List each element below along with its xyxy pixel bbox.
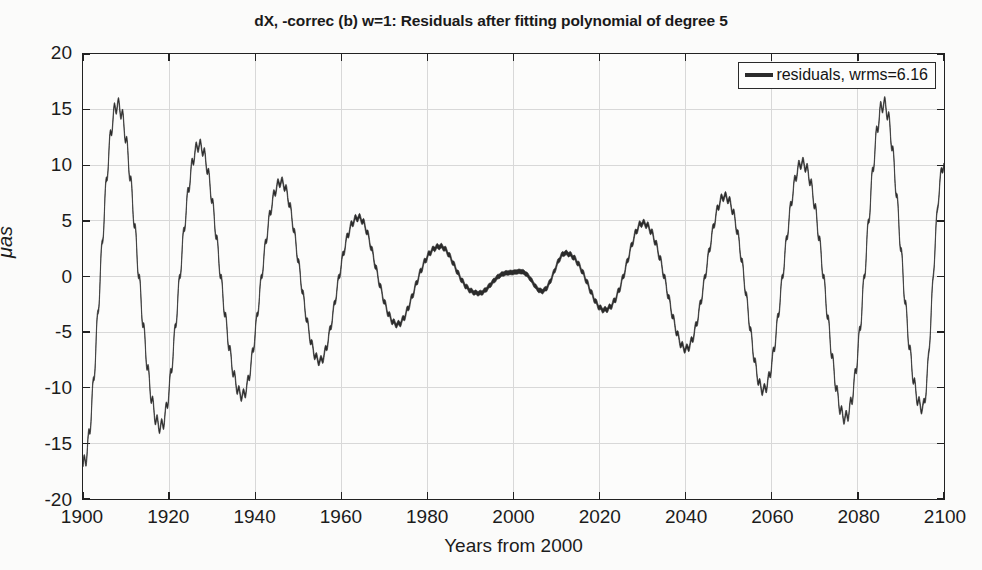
chart-legend: residuals, wrms=6.16 <box>738 62 936 89</box>
x-tick-label: 2040 <box>641 506 731 528</box>
x-tick-label: 1900 <box>37 506 127 528</box>
grid-lines <box>83 54 944 499</box>
x-tick-label: 2000 <box>469 506 559 528</box>
x-tick-label: 1920 <box>123 506 213 528</box>
x-tick-label: 1980 <box>382 506 472 528</box>
x-tick-label: 2100 <box>900 506 982 528</box>
x-tick-label: 2060 <box>727 506 817 528</box>
y-axis-label: μas <box>0 226 17 258</box>
y-tick-label: 20 <box>0 42 72 64</box>
y-tick-label: 15 <box>0 98 72 120</box>
y-tick-label: 10 <box>0 154 72 176</box>
chart-figure: dX, -correc (b) w=1: Residuals after fit… <box>0 0 982 570</box>
x-tick-label: 2080 <box>814 506 904 528</box>
plot-area: residuals, wrms=6.16 <box>82 53 945 500</box>
y-tick-label: -20 <box>0 489 72 511</box>
chart-title: dX, -correc (b) w=1: Residuals after fit… <box>0 12 982 30</box>
y-tick-label: 0 <box>0 266 72 288</box>
legend-line-swatch <box>745 73 773 77</box>
x-tick-label: 2020 <box>555 506 645 528</box>
y-tick-label: -15 <box>0 433 72 455</box>
x-tick-label: 1940 <box>210 506 300 528</box>
y-tick-label: -5 <box>0 321 72 343</box>
x-axis-label: Years from 2000 <box>82 535 945 557</box>
legend-label-residuals: residuals, wrms=6.16 <box>776 66 928 84</box>
x-tick-label: 1960 <box>296 506 386 528</box>
plot-canvas <box>83 54 944 499</box>
y-tick-label: -10 <box>0 377 72 399</box>
